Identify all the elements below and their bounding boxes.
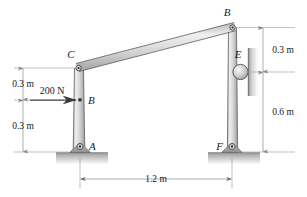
left-column-AC <box>73 68 85 152</box>
dimension-right-lower: 0.6 m <box>272 107 294 117</box>
label-joint-B-top: B <box>224 6 231 18</box>
label-support-F: F <box>215 140 223 152</box>
joint-pin-C <box>76 65 81 70</box>
label-joint-B-mid: B <box>88 94 95 106</box>
label-joint-E: E <box>234 48 242 60</box>
label-joint-C: C <box>67 48 75 60</box>
dimension-right-upper: 0.3 m <box>272 45 294 55</box>
pin-support-F <box>222 143 243 153</box>
label-support-A: A <box>88 140 96 152</box>
roller-E[interactable] <box>233 64 248 79</box>
joint-pin-B-mid <box>78 98 81 101</box>
statics-frame-figure: B C E B A F 200 N 0.3 m 0.3 m 0.3 m 0.6 … <box>0 0 307 197</box>
dimension-left-lower: 0.3 m <box>12 121 34 131</box>
dimension-left-upper: 0.3 m <box>12 79 34 89</box>
inclined-beam-CB <box>76 23 237 72</box>
right-column-FB <box>227 27 237 152</box>
pin-support-A <box>70 143 91 153</box>
dimension-span: 1.2 m <box>145 174 167 184</box>
force-magnitude-label: 200 N <box>40 85 65 96</box>
ground-hatch <box>56 153 260 165</box>
joint-pin-B-top <box>230 25 235 30</box>
